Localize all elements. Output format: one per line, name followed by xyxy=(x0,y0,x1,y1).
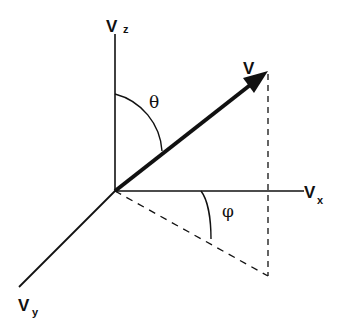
vy-label: V y xyxy=(18,296,39,318)
vz-label: V z xyxy=(106,17,129,36)
vy-axis xyxy=(19,191,115,287)
svg-text:V: V xyxy=(304,183,316,202)
svg-text:x: x xyxy=(317,194,324,206)
svg-text:V: V xyxy=(106,17,118,36)
vector-v-label: V xyxy=(243,59,255,78)
svg-text:z: z xyxy=(123,23,129,35)
vector-v xyxy=(115,82,254,191)
svg-text:V: V xyxy=(18,296,30,315)
theta-label: θ xyxy=(149,92,159,112)
phi-label: φ xyxy=(222,201,234,221)
vx-label: V x xyxy=(304,183,324,206)
vector-diagram: V z V x V y V θ φ xyxy=(0,0,342,327)
phi-arc xyxy=(201,191,211,239)
svg-text:y: y xyxy=(32,306,39,318)
xy-plane-projection-dashed xyxy=(115,191,268,276)
